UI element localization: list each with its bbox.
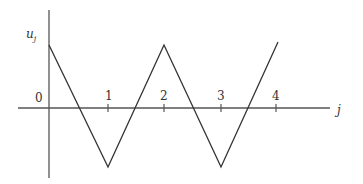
tick-label-4: 4 (272, 89, 280, 103)
origin-label: 0 (35, 91, 43, 105)
y-axis-label: uj (26, 27, 37, 43)
diagram-canvas: uj 0 1 2 3 4 j (0, 0, 363, 184)
x-axis-label: j (334, 103, 341, 117)
tick-label-3: 3 (217, 89, 225, 103)
tick-label-1: 1 (105, 89, 113, 103)
tick-label-2: 2 (160, 89, 168, 103)
